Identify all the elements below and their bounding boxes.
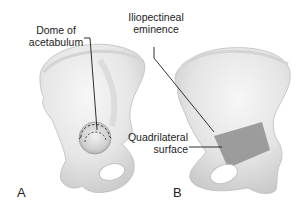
label-line: Quadrilateral [120,131,188,143]
acetabulum [79,122,111,154]
label-line: Dome of [24,24,88,36]
label-quadrilateral-surface: Quadrilateral surface [120,131,188,155]
panel-letter-a: A [17,185,26,200]
label-dome-of-acetabulum: Dome of acetabulum [24,24,88,48]
label-line: Iliopectineal [122,11,190,23]
label-line: surface [120,143,188,155]
panel-letter-b: B [173,185,182,200]
hip-bone-figure: Dome of acetabulum Iliopectineal eminenc… [0,0,298,209]
label-line: eminence [122,23,190,35]
label-line: acetabulum [24,36,88,48]
label-iliopectineal-eminence: Iliopectineal eminence [122,11,190,35]
hip-bone-medial-view [175,48,290,194]
